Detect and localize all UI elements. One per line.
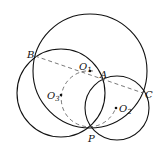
center-dot-o2 [115,107,118,110]
circle-left [17,49,105,137]
label-p: P [87,133,95,144]
center-dot-o3 [60,94,63,97]
geometry-diagram: B A C P O1 O2 O3 [0,0,162,155]
label-c: C [145,89,153,100]
label-a: A [99,69,107,80]
label-o3: O3 [47,90,60,103]
segment-bc-dashed [35,56,143,93]
label-o1: O1 [79,61,92,74]
label-b: B [26,49,34,60]
circle-o3-dashed [61,71,116,127]
label-o2: O2 [119,103,132,116]
